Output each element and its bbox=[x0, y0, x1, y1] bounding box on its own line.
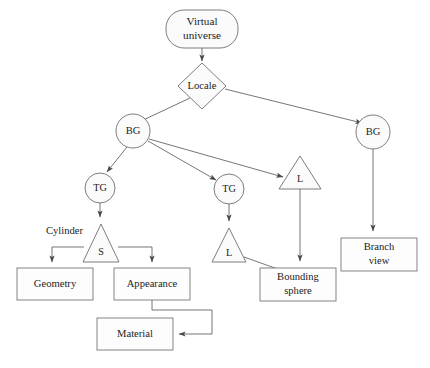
node-l-lower[interactable]: L bbox=[212, 228, 246, 262]
node-tg-mid[interactable]: TG bbox=[214, 174, 244, 204]
bg-right-label: BG bbox=[366, 126, 381, 137]
node-virtual-universe[interactable]: Virtual universe bbox=[166, 10, 238, 48]
virtual-universe-label-line2: universe bbox=[183, 29, 221, 41]
branch-view-label-line1: Branch bbox=[364, 241, 395, 252]
node-appearance[interactable]: Appearance bbox=[114, 268, 190, 300]
node-locale[interactable]: Locale bbox=[178, 63, 226, 109]
edge-bg-left-to-tg-mid bbox=[148, 141, 216, 180]
edge-bg-left-to-tg-left bbox=[107, 147, 127, 172]
edge-locale-to-bg-left bbox=[139, 98, 190, 122]
s-label: S bbox=[98, 246, 104, 257]
edge-bg-left-to-l-upper bbox=[149, 139, 283, 177]
tg-mid-label: TG bbox=[222, 183, 236, 194]
node-bounding-sphere[interactable]: Bounding sphere bbox=[260, 268, 336, 301]
node-s[interactable]: S bbox=[83, 224, 119, 262]
scene-graph-diagram: Virtual universe Locale BG BG TG bbox=[0, 0, 430, 368]
locale-label: Locale bbox=[188, 80, 217, 91]
free-labels-layer: Cylinder bbox=[46, 225, 84, 236]
material-label: Material bbox=[117, 328, 153, 339]
edge-locale-to-bg-right bbox=[225, 89, 362, 123]
bounding-sphere-label-line1: Bounding bbox=[277, 271, 319, 282]
virtual-universe-label-line1: Virtual bbox=[186, 15, 217, 27]
node-material[interactable]: Material bbox=[97, 318, 173, 350]
edge-s-to-appearance bbox=[118, 247, 152, 262]
bounding-sphere-label-line2: sphere bbox=[284, 285, 312, 296]
node-geometry[interactable]: Geometry bbox=[17, 268, 93, 300]
cylinder-label: Cylinder bbox=[46, 225, 84, 236]
node-branch-view[interactable]: Branch view bbox=[341, 238, 417, 271]
node-tg-left[interactable]: TG bbox=[85, 173, 115, 203]
l-lower-label: L bbox=[226, 247, 232, 258]
branch-view-label-line2: view bbox=[369, 255, 390, 266]
edge-s-to-geometry bbox=[52, 247, 84, 262]
node-l-upper[interactable]: L bbox=[279, 156, 321, 189]
appearance-label: Appearance bbox=[127, 278, 178, 289]
tg-left-label: TG bbox=[93, 182, 107, 193]
l-upper-label: L bbox=[297, 173, 303, 184]
node-bg-right[interactable]: BG bbox=[356, 115, 390, 149]
scene-graph-canvas: Virtual universe Locale BG BG TG bbox=[0, 0, 430, 368]
node-bg-left[interactable]: BG bbox=[116, 114, 150, 148]
bg-left-label: BG bbox=[126, 125, 141, 136]
nodes-layer: Virtual universe Locale BG BG TG bbox=[17, 10, 417, 350]
geometry-label: Geometry bbox=[34, 278, 77, 289]
